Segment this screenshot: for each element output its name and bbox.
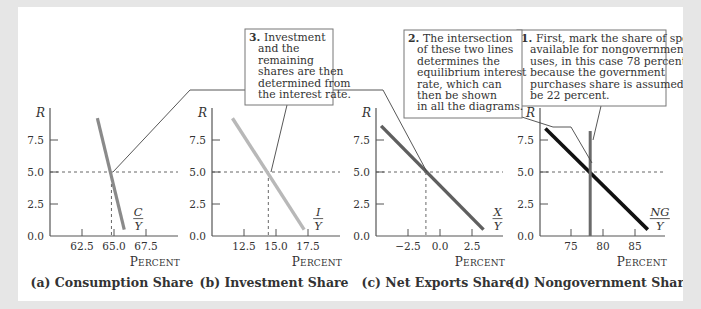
- interest-rate-share-diagrams: R0.02.55.07.562.565.067.5CYPERCENT(a) Co…: [18, 7, 683, 301]
- x-tick-label: 62.5: [70, 240, 93, 252]
- y-axis-label: R: [197, 106, 207, 120]
- panel-title-a: (a) Consumption Share: [31, 275, 194, 290]
- x-tick-label: 15.0: [264, 240, 287, 252]
- panel-title-d: (d) Nongovernment Share: [509, 275, 683, 290]
- share-line-b: [232, 118, 304, 229]
- x-axis-label: PERCENT: [617, 255, 667, 269]
- series-label-denominator: Y: [656, 219, 665, 233]
- x-tick-label: 17.5: [296, 240, 319, 252]
- y-tick-label: 7.5: [517, 134, 534, 146]
- callout-text-line: in all the diagrams.: [417, 100, 523, 113]
- y-tick-label: 5.0: [189, 166, 206, 178]
- y-tick-label: 2.5: [353, 198, 370, 210]
- share-line-c: [381, 126, 483, 230]
- panel-title-c: (c) Net Exports Share: [362, 275, 514, 290]
- panel-title-b: (b) Investment Share: [199, 275, 348, 290]
- x-tick-label: 85: [628, 240, 641, 252]
- y-tick-label: 2.5: [517, 198, 534, 210]
- series-label-numerator: X: [492, 205, 502, 219]
- series-label-numerator: C: [134, 205, 143, 219]
- figure-canvas: R0.02.55.07.562.565.067.5CYPERCENT(a) Co…: [18, 7, 683, 301]
- x-axis-label: PERCENT: [292, 255, 342, 269]
- y-tick-label: 7.5: [353, 134, 370, 146]
- series-label-denominator: Y: [134, 219, 143, 233]
- leader-line-1-d: [593, 106, 601, 140]
- y-tick-label: 5.0: [353, 166, 370, 178]
- panel-a: R0.02.55.07.562.565.067.5CYPERCENT(a) Co…: [27, 106, 193, 290]
- callout-3: 3. Investmentand theremainingshares are …: [245, 29, 351, 105]
- series-label-denominator: Y: [314, 219, 323, 233]
- y-tick-label: 7.5: [189, 134, 206, 146]
- panel-b: R0.02.55.07.512.515.017.5IYPERCENT(b) In…: [189, 106, 348, 290]
- y-axis-label: R: [525, 106, 535, 120]
- series-label-numerator: NG: [649, 205, 669, 219]
- x-tick-label: 65.0: [102, 240, 125, 252]
- share-line-a: [97, 118, 124, 229]
- y-tick-label: 5.0: [517, 166, 534, 178]
- y-tick-label: 0.0: [27, 230, 44, 242]
- figure-frame: R0.02.55.07.562.565.067.5CYPERCENT(a) Co…: [0, 0, 701, 309]
- y-axis-label: R: [361, 106, 371, 120]
- y-axis-label: R: [35, 106, 45, 120]
- callout-1: 1. First, mark the share of spendingavai…: [517, 30, 683, 106]
- y-tick-label: 7.5: [27, 134, 44, 146]
- series-label-numerator: I: [315, 205, 321, 219]
- x-axis-label: PERCENT: [455, 255, 505, 269]
- y-tick-label: 0.0: [353, 230, 370, 242]
- callout-text-line: the interest rate.: [258, 88, 351, 101]
- y-tick-label: 2.5: [27, 198, 44, 210]
- y-tick-label: 2.5: [189, 198, 206, 210]
- y-tick-label: 5.0: [27, 166, 44, 178]
- x-tick-label: 67.5: [134, 240, 157, 252]
- callout-text-line: be 22 percent.: [530, 89, 610, 102]
- panel-c: R0.02.55.07.5−2.50.02.5XYPERCENT(c) Net …: [353, 106, 513, 290]
- x-axis-label: PERCENT: [130, 255, 180, 269]
- y-tick-label: 0.0: [517, 230, 534, 242]
- x-tick-label: 0.0: [432, 240, 449, 252]
- leader-line-3-a: [113, 90, 246, 172]
- share-line-d: [545, 128, 647, 229]
- x-tick-label: 75: [564, 240, 577, 252]
- x-tick-label: −2.5: [395, 240, 421, 252]
- x-tick-label: 12.5: [232, 240, 255, 252]
- x-tick-label: 2.5: [464, 240, 481, 252]
- series-label-denominator: Y: [494, 219, 503, 233]
- panel-d: R0.02.55.07.5758085NGYPERCENT(d) Nongove…: [509, 106, 683, 290]
- y-tick-label: 0.0: [189, 230, 206, 242]
- leader-line-3-b: [271, 105, 287, 172]
- callout-2: 2. The intersectionof these two linesdet…: [404, 30, 527, 118]
- x-tick-label: 80: [596, 240, 609, 252]
